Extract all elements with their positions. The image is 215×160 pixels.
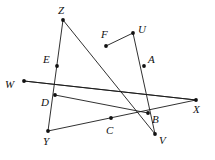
point-label-z: Z xyxy=(58,5,64,16)
vertex-a xyxy=(142,64,146,68)
segment-z-v xyxy=(63,20,155,134)
vertex-y xyxy=(46,129,50,133)
segment-d-b xyxy=(55,95,148,113)
point-label-w: W xyxy=(5,79,14,90)
vertex-z xyxy=(61,18,65,22)
vertices-layer xyxy=(22,18,198,136)
segment-y-x xyxy=(48,100,196,131)
vertex-d xyxy=(53,93,57,97)
segment-z-y xyxy=(48,20,63,131)
vertex-b xyxy=(146,111,150,115)
segment-u-f xyxy=(106,33,133,46)
point-label-a: A xyxy=(148,54,155,65)
point-label-x: X xyxy=(193,104,200,115)
point-label-c: C xyxy=(106,125,113,136)
point-label-b: B xyxy=(152,114,159,125)
vertex-x xyxy=(194,98,198,102)
vertex-w xyxy=(22,79,26,83)
vertex-f xyxy=(104,44,108,48)
point-label-d: D xyxy=(41,97,49,108)
point-label-y: Y xyxy=(43,136,49,147)
segment-w-x-lower xyxy=(24,81,196,100)
point-label-u: U xyxy=(138,24,146,35)
point-label-v: V xyxy=(159,135,166,146)
vertex-u xyxy=(131,31,135,35)
figure-canvas xyxy=(0,0,215,160)
geometry-figure: ZUFEAWDBCXYV xyxy=(0,0,215,160)
vertex-c xyxy=(109,116,113,120)
point-label-f: F xyxy=(101,29,108,40)
vertex-e xyxy=(55,64,59,68)
vertex-v xyxy=(153,132,157,136)
point-label-e: E xyxy=(43,54,50,65)
